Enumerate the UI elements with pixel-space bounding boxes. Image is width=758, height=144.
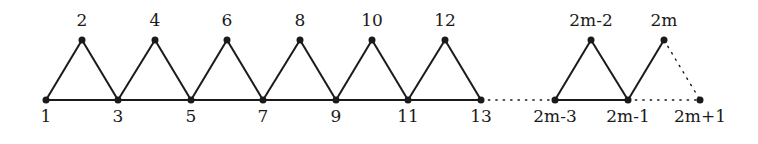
vertex-5 — [188, 97, 195, 104]
vertex-label-8: 8 — [295, 10, 306, 30]
edge-v7-v8 — [263, 40, 300, 100]
vertex-label-2m-3: 2m-3 — [533, 106, 577, 126]
vertex-label-2m: 2m — [651, 10, 678, 30]
edge-v2m-3-v2m-2 — [555, 40, 591, 100]
edge-v10-v11 — [372, 40, 408, 100]
vertex-1 — [43, 97, 50, 104]
vertex-13 — [478, 97, 485, 104]
vertex-label-6: 6 — [222, 10, 233, 30]
edges-layer — [46, 40, 700, 100]
vertex-label-2m+1: 2m+1 — [674, 106, 726, 126]
edge-v9-v10 — [336, 40, 372, 100]
edge-v6-v7 — [227, 40, 263, 100]
edge-v11-v12 — [408, 40, 445, 100]
edge-v1-v2 — [46, 40, 82, 100]
vertex-label-2m-2: 2m-2 — [569, 10, 613, 30]
vertex-2 — [79, 37, 86, 44]
vertex-11 — [405, 97, 412, 104]
vertex-label-9: 9 — [331, 106, 342, 126]
labels-layer: 123456789101112132m-32m-22m-12m2m+1 — [41, 10, 726, 126]
vertex-label-2m-1: 2m-1 — [606, 106, 650, 126]
vertex-12 — [442, 37, 449, 44]
vertex-3 — [115, 97, 122, 104]
edge-v2m-2-v2m-1 — [591, 40, 628, 100]
vertex-label-4: 4 — [150, 10, 161, 30]
edge-v5-v6 — [191, 40, 227, 100]
vertex-2m-1 — [625, 97, 632, 104]
vertex-label-3: 3 — [113, 106, 124, 126]
vertex-label-13: 13 — [470, 106, 492, 126]
graph-diagram: 123456789101112132m-32m-22m-12m2m+1 — [0, 0, 758, 144]
vertex-label-1: 1 — [41, 106, 52, 126]
vertex-10 — [369, 37, 376, 44]
edge-v12-v13 — [445, 40, 481, 100]
edge-v4-v5 — [155, 40, 191, 100]
vertex-label-12: 12 — [434, 10, 456, 30]
vertex-label-5: 5 — [186, 106, 197, 126]
edge-v2m-v2m+1 — [664, 40, 700, 100]
edge-v3-v4 — [118, 40, 155, 100]
vertex-label-10: 10 — [361, 10, 383, 30]
vertex-label-2: 2 — [77, 10, 88, 30]
vertex-2m-3 — [552, 97, 559, 104]
edge-v2m-1-v2m — [628, 40, 664, 100]
vertex-label-7: 7 — [258, 106, 269, 126]
vertex-4 — [152, 37, 159, 44]
edge-v2-v3 — [82, 40, 118, 100]
edge-v8-v9 — [300, 40, 336, 100]
vertices-layer — [43, 37, 704, 104]
vertex-9 — [333, 97, 340, 104]
vertex-7 — [260, 97, 267, 104]
vertex-6 — [224, 37, 231, 44]
vertex-2m+1 — [697, 97, 704, 104]
vertex-2m-2 — [588, 37, 595, 44]
vertex-2m — [661, 37, 668, 44]
vertex-8 — [297, 37, 304, 44]
vertex-label-11: 11 — [397, 106, 419, 126]
